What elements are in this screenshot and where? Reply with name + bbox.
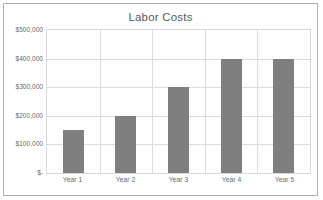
y-axis-tick-label: $- (3, 169, 43, 176)
bar-slot (257, 30, 310, 173)
y-axis-tick-labels: $-$100,000$200,000$300,000$400,000$500,0… (4, 29, 43, 174)
x-axis-tick-labels: Year 1Year 2Year 3Year 4Year 5 (46, 176, 311, 183)
bar-year-2[interactable] (115, 116, 136, 173)
x-axis-tick-label: Year 3 (152, 176, 205, 183)
bar-slot (152, 30, 205, 173)
y-axis-tick-label: $100,000 (3, 140, 43, 147)
plot-area (46, 29, 311, 174)
bar-series (47, 30, 310, 173)
chart-title: Labor Costs (4, 11, 317, 23)
bar-year-5[interactable] (273, 59, 294, 173)
chart-frame: Labor Costs $-$100,000$200,000$300,000$4… (3, 3, 318, 196)
x-axis-tick-label: Year 5 (258, 176, 311, 183)
bar-slot (47, 30, 100, 173)
y-axis-tick-label: $300,000 (3, 83, 43, 90)
y-axis-tick-label: $500,000 (3, 26, 43, 33)
bar-slot (100, 30, 153, 173)
bar-year-3[interactable] (168, 87, 189, 173)
y-axis-tick-label: $200,000 (3, 111, 43, 118)
bar-year-4[interactable] (221, 59, 242, 173)
y-axis-tick-label: $400,000 (3, 54, 43, 61)
bar-slot (205, 30, 258, 173)
x-axis-tick-label: Year 4 (205, 176, 258, 183)
x-axis-tick-label: Year 1 (46, 176, 99, 183)
x-axis-tick-label: Year 2 (99, 176, 152, 183)
bar-year-1[interactable] (63, 130, 84, 173)
